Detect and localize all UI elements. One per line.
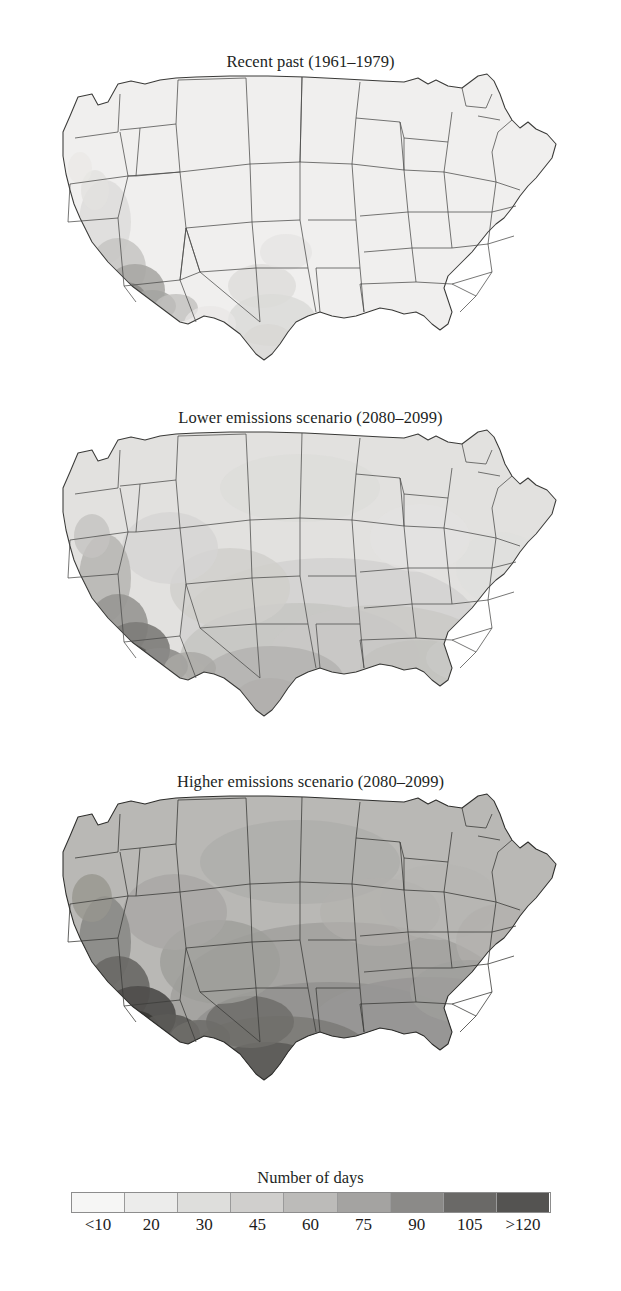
- legend-label-120: >120: [505, 1215, 540, 1235]
- legend-label-105: 105: [457, 1215, 483, 1235]
- legend-swatch-45: [231, 1193, 284, 1212]
- us-map-lower-emissions: [0, 428, 621, 758]
- map-panel-recent-past: Recent past (1961–1979): [0, 52, 621, 392]
- legend-colorbar: [71, 1192, 551, 1213]
- panel-title-lower-emissions: Lower emissions scenario (2080–2099): [0, 408, 621, 428]
- map-canvas-recent-past: [0, 72, 621, 392]
- legend-label-90: 90: [408, 1215, 425, 1235]
- legend-label-30: 30: [196, 1215, 213, 1235]
- legend-label-60: 60: [302, 1215, 319, 1235]
- legend-swatch-90: [391, 1193, 444, 1212]
- map-panel-higher-emissions: Higher emissions scenario (2080–2099): [0, 772, 621, 1132]
- legend-label-10: <10: [85, 1215, 112, 1235]
- legend-swatch-60: [284, 1193, 337, 1212]
- legend-swatch-120: [497, 1193, 549, 1212]
- legend-label-45: 45: [249, 1215, 266, 1235]
- legend-swatch-20: [125, 1193, 178, 1212]
- panel-title-recent-past: Recent past (1961–1979): [0, 52, 621, 72]
- legend-title: Number of days: [0, 1168, 621, 1188]
- map-canvas-higher-emissions: [0, 792, 621, 1132]
- panel-title-higher-emissions: Higher emissions scenario (2080–2099): [0, 772, 621, 792]
- legend-swatch-75: [338, 1193, 391, 1212]
- legend-swatch-30: [178, 1193, 231, 1212]
- legend-swatch-105: [444, 1193, 497, 1212]
- us-map-recent-past: [0, 72, 621, 392]
- map-canvas-lower-emissions: [0, 428, 621, 758]
- us-map-higher-emissions: [0, 792, 621, 1132]
- figure-root: Recent past (1961–1979): [0, 0, 621, 1291]
- legend-swatch-10: [72, 1193, 125, 1212]
- legend: Number of days <10203045607590105>120: [0, 1168, 621, 1239]
- map-panel-lower-emissions: Lower emissions scenario (2080–2099): [0, 408, 621, 758]
- legend-label-20: 20: [143, 1215, 160, 1235]
- legend-tick-labels: <10203045607590105>120: [72, 1215, 550, 1239]
- legend-label-75: 75: [355, 1215, 372, 1235]
